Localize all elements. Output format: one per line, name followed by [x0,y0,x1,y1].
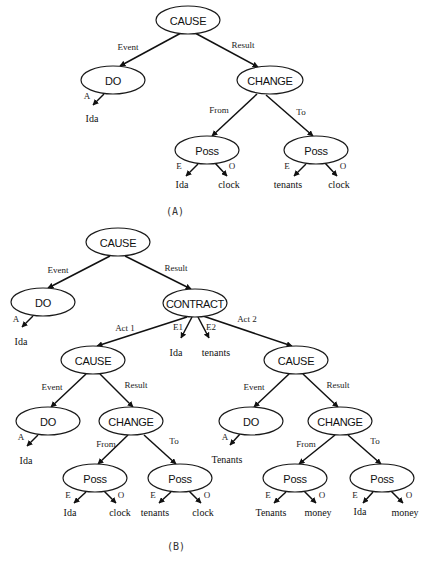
node-b-poss-1-from: Poss [63,464,127,492]
edge: From [96,435,128,464]
edge-label: E [65,490,71,500]
edge: Event [118,33,182,66]
edge-arrow-icon [303,374,338,407]
node-label: Poss [83,473,107,485]
leaf-a-leaf-clock-to: clock [328,179,350,190]
caption-b: (B) [167,541,185,552]
leaves-layer: IdaIdaclocktenantsclockIdaIdatenantsIdaT… [15,113,419,518]
edge-arrow-icon [100,374,133,407]
edge: E [352,490,373,503]
node-a-poss-to: Poss [284,136,348,164]
edge-label: To [296,107,306,117]
node-a-cause: CAUSE [156,6,220,34]
node-label: DO [40,416,57,428]
edge: O [189,490,211,503]
edge: Event [42,374,87,407]
edge: To [144,435,179,464]
edge: E [65,490,86,503]
edge-label: O [229,161,236,171]
leaf-b-leaf-clock-1-from: clock [109,507,131,518]
node-b-contract: CONTRACT [163,289,227,317]
node-label: CHANGE [108,416,153,428]
edge-arrow-icon [391,491,403,503]
leaf-b-leaf-tenants-agent-2: Tenants [212,454,243,465]
leaf-b-leaf-tenants-e2: tenants [202,347,230,358]
leaf-a-leaf-tenants-to: tenants [274,179,302,190]
node-label: DO [105,75,122,87]
edge-arrow-icon [27,435,38,446]
leaf-b-leaf-money-2-from: money [304,507,331,518]
edge-arrow-icon [212,94,257,136]
edge-arrow-icon [215,163,227,176]
leaf-b-leaf-money-2-to: money [391,507,418,518]
edge-arrow-icon [363,492,373,503]
edge-label: Event [42,382,63,392]
edge-label: E [284,161,290,171]
edge: E [265,490,286,503]
edge: Result [100,374,148,407]
edge: O [304,490,326,503]
edge-arrow-icon [104,491,116,503]
node-b-poss-2-from: Poss [263,464,327,492]
node-a-poss-from: Poss [175,136,239,164]
node-b-change-2: CHANGE [308,407,372,435]
edge-arrow-icon [266,95,313,136]
captions-layer: (A)(B) [166,206,185,552]
node-label: CHANGE [247,75,292,87]
edge: O [104,490,125,503]
edge: From [296,435,335,464]
nodes-layer: CAUSEDOCHANGEPossPossCAUSEDOCONTRACTCAUS… [11,6,414,492]
edge-arrow-icon [22,316,33,327]
edge-label: O [340,161,347,171]
node-label: DO [243,416,260,428]
node-label: Poss [195,145,219,157]
leaf-b-leaf-tenants-1-to: tenants [141,507,169,518]
edge-label: E2 [206,322,216,332]
edge-label: Event [244,382,265,392]
node-b-cause-1: CAUSE [61,346,125,374]
edge-arrow-icon [74,492,86,503]
edge-label: O [319,490,326,500]
node-b-change-1: CHANGE [99,407,163,435]
edge: Result [303,374,350,407]
node-label: CAUSE [170,15,206,27]
node-b-do: DO [11,288,75,316]
node-label: Poss [370,473,394,485]
node-label: DO [35,297,52,309]
leaf-a-leaf-ida-from: Ida [176,179,189,190]
node-label: CONTRACT [166,298,225,310]
edge-label: E [176,161,182,171]
edge-label: E [265,490,271,500]
edge-label: Result [124,380,148,390]
edge-label: A [13,314,20,324]
node-label: CAUSE [100,237,136,249]
edge-label: Act 2 [237,314,257,324]
node-a-change: CHANGE [237,66,303,94]
edge-label: To [370,436,380,446]
edge-label: O [204,490,211,500]
edge-label: Event [48,265,69,275]
edge-arrow-icon [186,164,198,176]
edge-label: E [150,490,156,500]
edge: Result [125,256,191,289]
node-label: Poss [304,145,328,157]
edge-arrow-icon [325,163,337,176]
edge-label: Act 1 [115,323,135,333]
leaf-a-leaf-clock-from: clock [218,179,240,190]
edge-arrow-icon [93,94,104,105]
node-label: CAUSE [75,355,111,367]
node-b-do-1: DO [16,407,80,435]
node-b-cause-2: CAUSE [264,346,328,374]
leaf-b-leaf-ida-1-from: Ida [64,507,77,518]
edge-label: Event [118,42,139,52]
node-label: CHANGE [317,416,362,428]
edge-label: From [209,105,229,115]
node-a-do: DO [81,66,145,94]
edge-label: A [18,432,25,442]
edge-label: O [406,490,413,500]
leaf-b-leaf-tenants-2-from: Tenants [256,507,287,518]
edge: Result [195,33,258,67]
edge-label: Result [164,263,188,273]
leaf-b-leaf-ida-agent: Ida [15,336,28,347]
node-b-poss-2-to: Poss [350,464,414,492]
